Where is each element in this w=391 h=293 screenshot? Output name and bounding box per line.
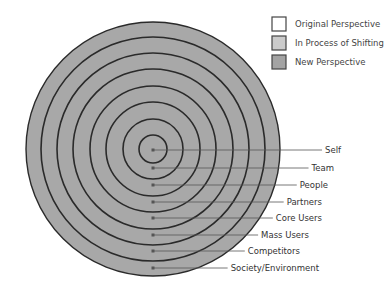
legend-swatch-shifting xyxy=(272,36,286,50)
legend-label-new: New Perspective xyxy=(295,57,365,67)
ring-label-team: Team xyxy=(311,163,334,173)
ring-label-partners: Partners xyxy=(287,197,323,207)
anchor-dot xyxy=(152,234,155,237)
legend: Original Perspective In Process of Shift… xyxy=(272,17,384,69)
anchor-dot xyxy=(152,184,155,187)
concentric-stakeholder-diagram: Self Team People Partners Core Users Mas… xyxy=(0,0,391,293)
anchor-dot xyxy=(152,167,155,170)
ring-label-self: Self xyxy=(325,145,342,155)
legend-label-shifting: In Process of Shifting xyxy=(295,38,384,48)
anchor-dot xyxy=(152,201,155,204)
ring-label-mass-users: Mass Users xyxy=(261,230,309,240)
ring-label-core-users: Core Users xyxy=(276,213,323,223)
ring-label-people: People xyxy=(300,180,328,190)
legend-label-original: Original Perspective xyxy=(295,19,380,29)
anchor-dot xyxy=(152,267,155,270)
legend-swatch-original xyxy=(272,17,286,31)
anchor-dot xyxy=(152,250,155,253)
anchor-dot xyxy=(152,217,155,220)
ring-label-society-environment: Society/Environment xyxy=(231,263,320,273)
legend-swatch-new xyxy=(272,55,286,69)
ring-label-competitors: Competitors xyxy=(248,246,301,256)
anchor-dot xyxy=(152,149,155,152)
